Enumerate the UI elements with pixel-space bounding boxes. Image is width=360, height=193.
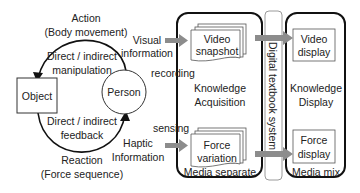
video-snapshot-label-line2: snapshot (193, 45, 241, 57)
visual-label-line1: Visual (126, 34, 168, 46)
feedback-label-line2: feedback (56, 129, 108, 141)
haptic-label-line2: Information (108, 151, 168, 163)
knowledge-display-line2: Display (286, 96, 346, 108)
action-label: Action (60, 12, 112, 24)
media-separate-footer: Media separate (179, 166, 261, 178)
manipulation-label-line1: Direct / indirect (44, 50, 120, 62)
knowledge-display-line1: Knowledge (286, 82, 346, 94)
knowledge-acquisition-line1: Knowledge (186, 82, 254, 94)
video-display-label-line2: display (293, 46, 335, 58)
video-snapshot-label-line1: Video (196, 33, 238, 45)
media-mix-footer: Media mix (290, 166, 342, 178)
force-display-label-line2: display (293, 148, 335, 160)
digital-textbook-label: Digital textbook system (266, 32, 280, 160)
force-variation-label-line1: Force (196, 139, 238, 151)
reaction-label: Reaction (54, 154, 110, 166)
feedback-label-line1: Direct / indirect (44, 115, 120, 127)
manipulation-label-line2: manipulation (48, 64, 116, 76)
reaction-sub-label: (Force sequence) (36, 168, 128, 180)
person-label: Person (102, 86, 146, 98)
haptic-label-line1: Haptic (118, 137, 158, 149)
force-display-label-line1: Force (293, 134, 335, 146)
knowledge-acquisition-line2: Acquisition (186, 96, 254, 108)
recording-label: recording (148, 67, 198, 79)
visual-label-line2: information (120, 47, 174, 59)
force-variation-label-line2: variation (191, 152, 243, 164)
action-sub-label: (Body movement) (42, 26, 130, 38)
object-label: Object (17, 90, 57, 102)
sensing-label: sensing (150, 122, 192, 134)
video-display-label-line1: Video (293, 33, 335, 45)
